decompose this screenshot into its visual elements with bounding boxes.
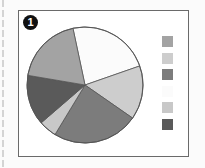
legend-swatch-4: [162, 86, 173, 97]
legend: [162, 36, 174, 136]
legend-swatch-3: [162, 69, 173, 80]
pie-chart: [0, 0, 205, 168]
legend-swatch-2: [162, 53, 173, 64]
legend-swatch-5: [162, 102, 173, 113]
legend-swatch-6: [162, 119, 173, 130]
legend-swatch-1: [162, 36, 173, 47]
